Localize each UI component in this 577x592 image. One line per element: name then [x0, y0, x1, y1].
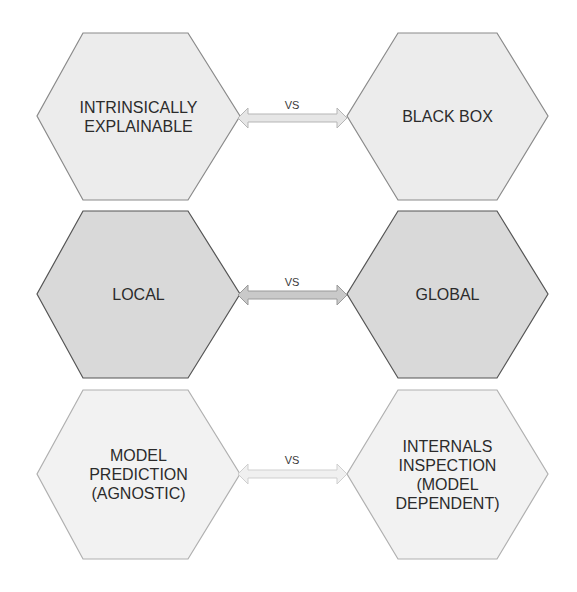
hexagon-label-right: GLOBAL [347, 211, 548, 378]
hexagon-label-left: INTRINSICALLY EXPLAINABLE [37, 33, 240, 200]
double-arrow-icon [238, 464, 347, 484]
vs-label: VS [272, 276, 312, 288]
hexagon-label-left: LOCAL [37, 211, 240, 378]
double-arrow-icon [238, 285, 347, 305]
hexagon-label-left: MODEL PREDICTION (AGNOSTIC) [37, 390, 240, 559]
vs-label: VS [272, 99, 312, 111]
vs-label: VS [272, 454, 312, 466]
hexagon-label-right: INTERNALS INSPECTION (MODEL DEPENDENT) [347, 390, 548, 559]
hexagon-label-right: BLACK BOX [347, 33, 548, 200]
double-arrow-icon [238, 108, 347, 128]
